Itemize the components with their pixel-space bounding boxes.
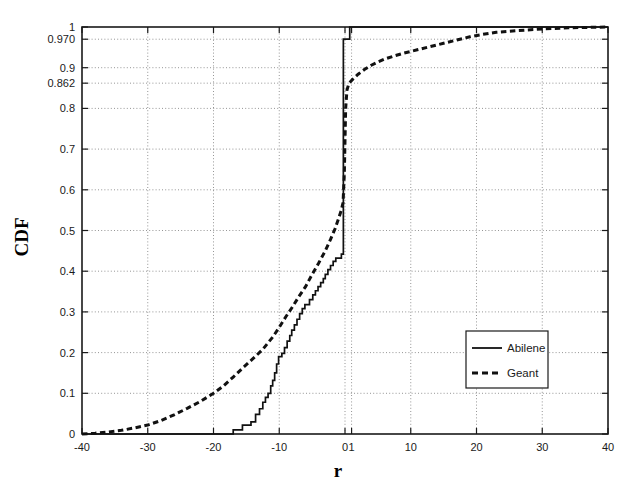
x-tick-label: 1 bbox=[349, 441, 355, 453]
legend-box bbox=[466, 331, 548, 388]
y-tick-label: 0.1 bbox=[60, 387, 75, 399]
y-tick-label: 0.6 bbox=[60, 184, 75, 196]
x-axis-title: r bbox=[334, 460, 343, 481]
x-tick-label: -20 bbox=[206, 441, 222, 453]
y-tick-label: 1 bbox=[69, 21, 75, 33]
legend: Abilene Geant bbox=[466, 331, 548, 388]
y-tick-label: 0.7 bbox=[60, 143, 75, 155]
x-tick-label: 40 bbox=[602, 441, 614, 453]
y-tick-label: 0.2 bbox=[60, 347, 75, 359]
legend-label-abilene: Abilene bbox=[507, 342, 545, 354]
y-axis-title: CDF bbox=[11, 217, 32, 256]
x-tick-label: -10 bbox=[271, 441, 287, 453]
x-tick-label: 20 bbox=[470, 441, 482, 453]
cdf-chart-figure: -40-30-20-10011020304000.10.20.30.40.50.… bbox=[0, 0, 636, 499]
y-tick-label: 0 bbox=[69, 428, 75, 440]
x-tick-label: -40 bbox=[74, 441, 90, 453]
y-tick-label: 0.3 bbox=[60, 306, 75, 318]
y-tick-label: 0.4 bbox=[60, 265, 75, 277]
chart-canvas: -40-30-20-10011020304000.10.20.30.40.50.… bbox=[0, 0, 636, 499]
y-tick-label: 0.5 bbox=[60, 225, 75, 237]
y-tick-label: 0.9 bbox=[60, 62, 75, 74]
x-tick-label: 0 bbox=[342, 441, 348, 453]
legend-label-geant: Geant bbox=[507, 367, 539, 379]
x-tick-label: -30 bbox=[140, 441, 156, 453]
x-tick-label: 30 bbox=[536, 441, 548, 453]
x-tick-label: 10 bbox=[405, 441, 417, 453]
y-tick-label: 0.862 bbox=[47, 77, 75, 89]
y-tick-label: 0.970 bbox=[47, 33, 75, 45]
y-tick-label: 0.8 bbox=[60, 102, 75, 114]
